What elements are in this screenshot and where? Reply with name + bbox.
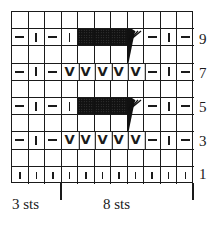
empty-cell <box>45 150 62 167</box>
purl-dash-icon <box>177 64 194 81</box>
repeat-divider-left <box>60 183 62 200</box>
row-label-9: 9 <box>199 32 207 47</box>
empty-cell <box>62 115 79 132</box>
edge-stitches-label: 3 sts <box>12 197 39 212</box>
gather-cell <box>128 29 145 46</box>
knit-bar-icon <box>144 167 161 184</box>
empty-cell <box>144 115 161 132</box>
empty-cell <box>78 46 95 63</box>
purl-dash-icon <box>45 64 62 81</box>
repeat-divider-right <box>192 183 194 200</box>
empty-cell <box>45 12 62 29</box>
slip-v-icon: V <box>110 64 128 81</box>
empty-cell <box>95 150 112 167</box>
empty-cell <box>111 46 128 63</box>
purl-dash-icon <box>12 64 29 81</box>
purl-dash-icon <box>177 29 194 46</box>
knit-bar-icon <box>62 167 79 184</box>
empty-cell <box>144 81 161 98</box>
slip-v-icon: V <box>127 64 145 81</box>
knit-bar-icon <box>29 167 46 184</box>
knit-bar-icon <box>161 98 178 115</box>
empty-cell <box>95 46 112 63</box>
empty-cell <box>161 150 178 167</box>
empty-cell <box>95 81 112 98</box>
empty-cell <box>161 46 178 63</box>
knit-bar-icon <box>78 167 95 184</box>
repeat-stitches-label: 8 sts <box>103 197 130 212</box>
wrap-block-icon <box>78 98 95 115</box>
row-label-1: 1 <box>199 167 207 182</box>
knit-bar-icon <box>161 167 178 184</box>
purl-dash-icon <box>177 98 194 115</box>
empty-cell <box>78 81 95 98</box>
empty-cell <box>128 12 145 29</box>
row-label-7: 7 <box>199 66 207 81</box>
empty-cell <box>177 12 194 29</box>
purl-dash-icon <box>12 29 29 46</box>
slip-v-icon: V <box>110 132 128 149</box>
knit-bar-icon <box>62 98 79 115</box>
knit-bar-icon <box>161 64 178 81</box>
knit-bar-icon <box>45 167 62 184</box>
knit-bar-icon <box>29 29 46 46</box>
empty-cell <box>128 46 145 63</box>
empty-cell <box>95 12 112 29</box>
knit-bar-icon <box>177 167 194 184</box>
knit-bar-icon <box>128 167 145 184</box>
purl-dash-icon <box>144 29 161 46</box>
chart-grid: VVVVVVVVVV <box>11 11 193 183</box>
knit-bar-icon <box>161 29 178 46</box>
empty-cell <box>177 115 194 132</box>
empty-cell <box>12 81 29 98</box>
empty-cell <box>62 150 79 167</box>
knit-bar-icon <box>29 64 46 81</box>
empty-cell <box>144 150 161 167</box>
row-label-3: 3 <box>199 134 207 149</box>
empty-cell <box>78 150 95 167</box>
purl-dash-icon <box>144 64 161 81</box>
purl-dash-icon <box>12 132 29 149</box>
purl-dash-icon <box>177 132 194 149</box>
wrap-block-icon <box>95 98 112 115</box>
knit-bar-icon <box>161 132 178 149</box>
slip-v-icon: V <box>77 64 95 81</box>
empty-cell <box>177 46 194 63</box>
empty-cell <box>29 115 46 132</box>
empty-cell <box>111 81 128 98</box>
knit-bar-icon <box>12 167 29 184</box>
empty-cell <box>161 12 178 29</box>
row-label-5: 5 <box>199 100 207 115</box>
purl-dash-icon <box>12 98 29 115</box>
empty-cell <box>128 81 145 98</box>
empty-cell <box>78 12 95 29</box>
empty-cell <box>29 81 46 98</box>
empty-cell <box>128 150 145 167</box>
knit-bar-icon <box>95 167 112 184</box>
purl-dash-icon <box>144 132 161 149</box>
slip-v-icon: V <box>77 132 95 149</box>
empty-cell <box>29 12 46 29</box>
wrap-block-icon <box>111 29 128 46</box>
empty-cell <box>111 115 128 132</box>
empty-cell <box>62 12 79 29</box>
wrap-block-icon <box>111 98 128 115</box>
gather-cell <box>128 98 145 115</box>
empty-cell <box>177 150 194 167</box>
empty-cell <box>29 46 46 63</box>
empty-cell <box>161 115 178 132</box>
wrap-block-icon <box>78 29 95 46</box>
empty-cell <box>144 46 161 63</box>
empty-cell <box>95 115 112 132</box>
empty-cell <box>111 150 128 167</box>
empty-cell <box>177 81 194 98</box>
empty-cell <box>45 115 62 132</box>
knit-bar-icon <box>29 98 46 115</box>
knit-bar-icon <box>62 29 79 46</box>
empty-cell <box>45 81 62 98</box>
empty-cell <box>12 150 29 167</box>
empty-cell <box>62 46 79 63</box>
empty-cell <box>111 12 128 29</box>
purl-dash-icon <box>45 29 62 46</box>
empty-cell <box>144 12 161 29</box>
